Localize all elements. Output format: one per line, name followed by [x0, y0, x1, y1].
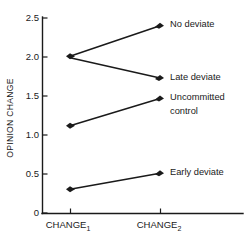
series-label-uncommitted-control-line1: Uncommitted: [170, 92, 225, 102]
x-tick-label-text: CHANGE: [137, 219, 178, 230]
series-label-early-deviate: Early deviate: [170, 167, 224, 177]
x-tick-label-subscript: 2: [177, 225, 181, 232]
y-axis-tick-labels: 2.5 2.0 1.5 1.0 0.5 0: [26, 12, 39, 218]
data-point-marker: [155, 96, 164, 102]
chart-plot-area: 2.5 2.0 1.5 1.0 0.5 0 OPINION CHANGE CHA…: [0, 0, 245, 242]
series-early-deviate: [66, 170, 164, 192]
y-axis-ticks: [43, 18, 48, 213]
series-late-deviate: [70, 58, 164, 81]
y-tick-label: 1.0: [26, 129, 39, 140]
data-point-marker: [155, 75, 164, 81]
series-no-deviate: [66, 23, 164, 59]
series-uncommitted-control: [66, 96, 164, 129]
series-label-uncommitted-control-line2: control: [170, 106, 198, 116]
x-axis-ticks: [71, 209, 161, 214]
data-point-marker: [155, 170, 164, 176]
y-tick-label: 2.0: [26, 51, 39, 62]
y-tick-label: 2.5: [26, 12, 39, 23]
data-point-marker: [66, 186, 75, 192]
data-point-marker: [155, 23, 164, 29]
opinion-change-line-chart: 2.5 2.0 1.5 1.0 0.5 0 OPINION CHANGE CHA…: [0, 0, 245, 242]
y-tick-label: 0.5: [26, 168, 39, 179]
y-tick-label: 0: [34, 207, 39, 218]
series-label-no-deviate: No deviate: [170, 19, 214, 29]
y-tick-label: 1.5: [26, 90, 39, 101]
series-label-late-deviate: Late deviate: [170, 72, 221, 82]
x-tick-label-change2: CHANGE2: [137, 219, 182, 232]
y-axis-title: OPINION CHANGE: [5, 78, 15, 158]
x-tick-label-subscript: 1: [86, 225, 90, 232]
x-axis-tick-labels: CHANGE1 CHANGE2: [46, 219, 182, 232]
x-tick-label-change1: CHANGE1: [46, 219, 91, 232]
data-point-marker: [66, 123, 75, 129]
x-tick-label-text: CHANGE: [46, 219, 87, 230]
